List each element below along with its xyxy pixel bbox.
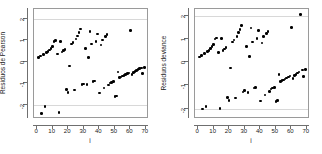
data-point [228,99,231,102]
data-point [261,42,264,45]
data-point [250,27,253,30]
data-point [268,90,271,93]
data-point [117,71,120,74]
x-tick-label: 70 [142,128,149,134]
data-point [64,48,67,51]
gridline-y--2 [34,105,147,106]
data-point [217,51,220,54]
data-point [273,86,276,89]
data-point [248,55,251,58]
y-tick-label: 2 [180,15,186,18]
x-tick-label: 0 [195,128,198,134]
x-axis-label-right: i [250,137,251,144]
data-point [87,56,90,59]
panel-pearson-residuals: Residuos de Pearson 010203040506070210-1… [0,0,161,154]
data-point [290,26,293,29]
data-point [68,65,71,68]
data-point [262,35,265,38]
gridline-y-2 [34,19,147,20]
data-point [240,24,243,27]
data-point [90,43,93,46]
data-point [201,108,204,111]
x-tick-label: 40 [256,128,263,134]
x-tick-label: 20 [64,128,71,134]
data-point [98,92,101,95]
data-point [95,40,98,43]
data-point [265,32,268,35]
data-point [200,54,203,57]
y-axis-label-right: Residuos deviance [160,36,167,91]
data-point [229,67,232,70]
x-tick-label: 60 [287,128,294,134]
data-point [302,75,305,78]
data-point [304,68,307,71]
data-point [256,37,259,40]
data-point [259,100,262,103]
y-tick-label: -2 [180,108,186,113]
data-point [67,91,70,94]
plot-area-left [33,8,148,118]
data-point [212,43,215,46]
x-tick-label: 10 [48,128,55,134]
gridline-y-2 [195,16,308,17]
data-point [129,29,132,32]
data-point [298,71,301,74]
data-point [267,30,270,33]
data-point [115,95,118,98]
data-point [239,28,242,31]
data-point [257,29,260,32]
data-point [79,28,82,31]
data-point [73,89,76,92]
data-point [107,84,110,87]
plot-area-right [194,8,309,118]
x-axis-label-left: i [89,137,90,144]
x-tick-label: 20 [225,128,232,134]
data-point [236,35,239,38]
data-point [40,112,43,115]
x-tick-label: 50 [110,128,117,134]
data-point [254,86,257,89]
data-point [220,37,223,40]
data-point [219,107,222,110]
x-axis-line-left [33,125,148,126]
y-tick-label: -1 [19,82,25,87]
data-point [276,99,279,102]
data-point [100,44,103,47]
data-point [54,39,57,42]
x-tick-label: 10 [209,128,216,134]
data-point [103,87,106,90]
gridline-y--2 [195,109,308,110]
data-point [58,111,61,114]
data-point [292,77,295,80]
data-point [44,105,47,108]
data-point [76,35,79,38]
x-tick-label: 30 [79,128,86,134]
x-tick-label: 30 [240,128,247,134]
data-point [128,72,131,75]
data-point [51,45,54,48]
y-tick-label: 1 [19,39,25,42]
data-point [86,83,89,86]
bottom-edge-artifact [0,151,322,154]
data-point [243,89,246,92]
data-point [89,30,92,33]
data-point [56,53,59,56]
data-point [78,31,81,34]
data-point [106,33,109,36]
data-point [72,41,75,44]
data-point [141,72,144,75]
y-axis-line-left [27,8,28,118]
residual-diagnostics-figure: Residuos de Pearson 010203040506070210-1… [0,0,322,154]
data-point [96,33,99,36]
x-axis-line-right [194,125,309,126]
x-tick-label: 70 [303,128,310,134]
x-tick-label: 60 [126,128,133,134]
data-point [233,39,236,42]
data-point [82,83,85,86]
data-point [101,39,104,42]
data-point [42,53,45,56]
data-point [245,45,248,48]
x-tick-label: 50 [271,128,278,134]
y-tick-label: 0 [19,61,25,64]
x-tick-label: 40 [95,128,102,134]
